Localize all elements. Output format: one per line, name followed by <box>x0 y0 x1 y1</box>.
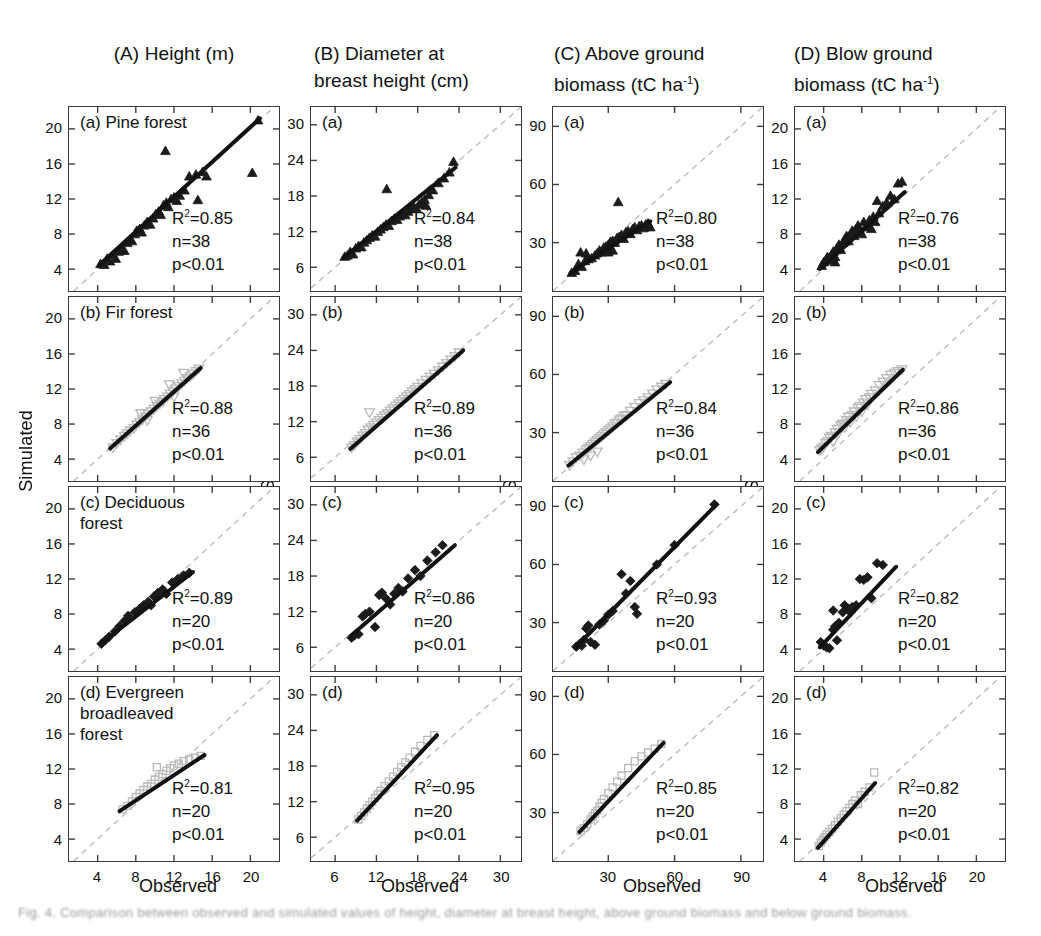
x-tick-b-6: 6 <box>319 868 349 885</box>
x-tick-a-16: 16 <box>198 868 228 885</box>
x-tick-d-12: 12 <box>885 868 915 885</box>
plot-panel-ca <box>552 106 764 292</box>
x-tick-b-12: 12 <box>361 868 391 885</box>
y-tick-cb-90: 90 <box>512 307 546 324</box>
column-title-a: (A) Height (m) <box>56 40 292 67</box>
x-tick-d-4: 4 <box>808 868 838 885</box>
y-tick-ad-20: 20 <box>28 689 62 706</box>
y-tick-bc-12: 12 <box>270 603 304 620</box>
y-tick-ab-20: 20 <box>28 309 62 326</box>
y-tick-ab-12: 12 <box>28 380 62 397</box>
y-tick-bb-30: 30 <box>270 305 304 322</box>
y-tick-ba-24: 24 <box>270 151 304 168</box>
y-tick-dc-4: 4 <box>754 641 788 658</box>
y-tick-da-4: 4 <box>754 261 788 278</box>
x-tick-a-4: 4 <box>82 868 112 885</box>
y-tick-ca-30: 30 <box>512 234 546 251</box>
y-tick-ac-12: 12 <box>28 570 62 587</box>
y-tick-ba-30: 30 <box>270 115 304 132</box>
plot-panel-bd <box>310 676 522 862</box>
figure-root: (A) Height (m) (B) Diameter at breast he… <box>0 0 1041 936</box>
y-tick-bc-18: 18 <box>270 567 304 584</box>
y-tick-cb-60: 60 <box>512 365 546 382</box>
plot-panel-da <box>794 106 1006 292</box>
y-tick-ac-20: 20 <box>28 499 62 516</box>
x-tick-b-30: 30 <box>486 868 516 885</box>
x-tick-a-20: 20 <box>236 868 266 885</box>
y-tick-ba-12: 12 <box>270 223 304 240</box>
column-title-b-line2: breast height (cm) <box>314 67 544 94</box>
y-tick-bd-18: 18 <box>270 757 304 774</box>
x-tick-b-24: 24 <box>444 868 474 885</box>
y-tick-bb-18: 18 <box>270 377 304 394</box>
y-tick-ad-16: 16 <box>28 725 62 742</box>
plot-panel-cc <box>552 486 764 672</box>
y-tick-bb-24: 24 <box>270 341 304 358</box>
y-tick-db-8: 8 <box>754 415 788 432</box>
y-tick-dc-12: 12 <box>754 570 788 587</box>
y-tick-da-12: 12 <box>754 190 788 207</box>
plot-panel-ac <box>68 486 280 672</box>
y-tick-dc-8: 8 <box>754 605 788 622</box>
y-tick-bd-6: 6 <box>270 829 304 846</box>
x-tick-d-16: 16 <box>924 868 954 885</box>
y-tick-ba-18: 18 <box>270 187 304 204</box>
plot-panel-ba <box>310 106 522 292</box>
y-tick-db-20: 20 <box>754 309 788 326</box>
x-tick-a-12: 12 <box>159 868 189 885</box>
y-tick-aa-12: 12 <box>28 190 62 207</box>
y-tick-dd-4: 4 <box>754 831 788 848</box>
y-tick-bc-30: 30 <box>270 495 304 512</box>
figure-caption-text: Fig. 4. Comparison between observed and … <box>18 905 1023 920</box>
y-tick-dd-20: 20 <box>754 689 788 706</box>
y-tick-ab-16: 16 <box>28 345 62 362</box>
x-tick-c-30: 30 <box>593 868 623 885</box>
y-tick-ac-16: 16 <box>28 535 62 552</box>
plot-panel-cd <box>552 676 764 862</box>
y-tick-cd-60: 60 <box>512 745 546 762</box>
y-tick-bc-24: 24 <box>270 531 304 548</box>
plot-panel-ab <box>68 296 280 482</box>
y-tick-ab-8: 8 <box>28 415 62 432</box>
column-title-c-line1: (C) Above ground <box>554 40 790 67</box>
plot-panel-ad <box>68 676 280 862</box>
column-title-b-line1: (B) Diameter at <box>314 40 544 67</box>
column-title-c-line2-text: biomass (tC ha <box>554 74 683 95</box>
y-tick-bd-30: 30 <box>270 685 304 702</box>
y-tick-ad-12: 12 <box>28 760 62 777</box>
column-title-d: (D) Blow ground biomass (tC ha-1) <box>782 40 1034 98</box>
column-title-a-line1: (A) Height (m) <box>56 40 292 67</box>
plot-panel-aa <box>68 106 280 292</box>
y-tick-cc-60: 60 <box>512 555 546 572</box>
y-tick-bd-12: 12 <box>270 793 304 810</box>
column-title-d-line1: (D) Blow ground <box>794 40 1034 67</box>
y-tick-aa-8: 8 <box>28 225 62 242</box>
column-title-c-line2: biomass (tC ha-1) <box>554 67 790 98</box>
y-tick-dd-8: 8 <box>754 795 788 812</box>
plot-panel-dd <box>794 676 1006 862</box>
column-title-c-unit-exponent: -1 <box>683 74 693 86</box>
y-tick-ba-6: 6 <box>270 259 304 276</box>
y-tick-aa-4: 4 <box>28 261 62 278</box>
y-tick-ac-4: 4 <box>28 641 62 658</box>
y-tick-db-12: 12 <box>754 380 788 397</box>
plot-panel-cb <box>552 296 764 482</box>
y-tick-cd-90: 90 <box>512 687 546 704</box>
y-tick-ad-4: 4 <box>28 831 62 848</box>
column-title-b: (B) Diameter at breast height (cm) <box>300 40 544 94</box>
y-tick-da-20: 20 <box>754 119 788 136</box>
y-tick-db-16: 16 <box>754 345 788 362</box>
x-tick-c-60: 60 <box>660 868 690 885</box>
y-tick-dd-16: 16 <box>754 725 788 742</box>
x-tick-d-8: 8 <box>846 868 876 885</box>
y-tick-dc-20: 20 <box>754 499 788 516</box>
y-tick-cd-30: 30 <box>512 804 546 821</box>
x-tick-c-90: 90 <box>727 868 757 885</box>
plot-panel-dc <box>794 486 1006 672</box>
y-tick-cc-30: 30 <box>512 614 546 631</box>
y-tick-ad-8: 8 <box>28 795 62 812</box>
column-title-d-line2-text: biomass (tC ha <box>794 74 923 95</box>
plot-panel-bb <box>310 296 522 482</box>
figure-caption: Fig. 4. Comparison between observed and … <box>18 905 1023 929</box>
plot-panel-db <box>794 296 1006 482</box>
